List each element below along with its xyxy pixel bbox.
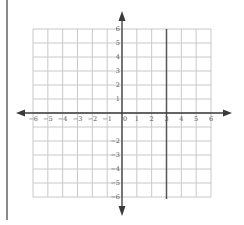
coordinate-plane: −6−5−4−3−2−10123456654321−2−3−4−5−6 bbox=[0, 0, 244, 225]
y-tick-label: 2 bbox=[116, 81, 120, 89]
x-axis-right-arrow-icon bbox=[223, 110, 232, 117]
y-axis-down-arrow-icon bbox=[119, 206, 126, 216]
x-tick-label: 6 bbox=[209, 115, 213, 123]
y-tick-label: −2 bbox=[110, 137, 120, 145]
x-tick-label: 0 bbox=[123, 115, 127, 123]
y-tick-label: 3 bbox=[116, 67, 120, 75]
y-tick-label: 4 bbox=[116, 53, 120, 61]
y-tick-label: 1 bbox=[116, 95, 120, 103]
x-tick-label: 2 bbox=[150, 115, 154, 123]
y-tick-label: −4 bbox=[110, 165, 120, 173]
x-tick-label: −3 bbox=[73, 115, 83, 123]
x-tick-label: −4 bbox=[58, 115, 68, 123]
y-tick-label: −5 bbox=[110, 179, 120, 187]
y-tick-label: −6 bbox=[110, 193, 120, 201]
x-tick-label: 5 bbox=[194, 115, 198, 123]
y-tick-label: 6 bbox=[116, 25, 120, 33]
x-tick-label: −5 bbox=[43, 115, 53, 123]
x-axis-left-arrow-icon bbox=[16, 110, 25, 117]
x-tick-label: −1 bbox=[102, 115, 112, 123]
x-tick-label: 3 bbox=[164, 115, 168, 123]
y-axis-up-arrow-icon bbox=[119, 11, 126, 21]
x-tick-label: 4 bbox=[179, 115, 183, 123]
y-tick-label: −3 bbox=[110, 151, 120, 159]
y-tick-label: 5 bbox=[116, 39, 120, 47]
x-tick-label: 1 bbox=[135, 115, 139, 123]
x-tick-label: −6 bbox=[28, 115, 38, 123]
x-tick-label: −2 bbox=[88, 115, 98, 123]
